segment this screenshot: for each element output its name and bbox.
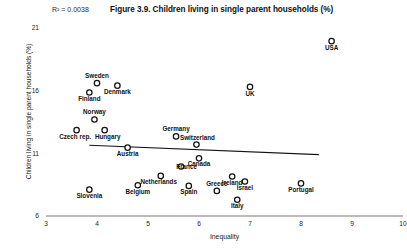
data-point-marker — [94, 80, 99, 85]
data-point-label: Spain — [180, 188, 197, 196]
data-point: Slovenia — [76, 187, 102, 199]
data-point: France — [176, 163, 197, 170]
scatter-plot: 3456789106111621 USASwedenDenmarkFinland… — [0, 0, 407, 252]
x-axis-label: Inequality — [46, 233, 403, 240]
data-point-label: Hungary — [95, 133, 121, 141]
x-tick-label: 4 — [95, 220, 99, 227]
data-point: Hungary — [95, 127, 121, 140]
data-point-label: Czech rep. — [59, 133, 91, 141]
data-point: Italy — [231, 197, 244, 210]
x-tick-label: 8 — [299, 220, 303, 227]
data-point-label: Germany — [162, 125, 190, 133]
data-points-group: USASwedenDenmarkFinlandUKNorwayCzech rep… — [59, 38, 339, 210]
data-point-label: Greece — [206, 180, 228, 187]
data-point: Greece — [206, 180, 228, 194]
data-point: USA — [325, 38, 339, 50]
y-tick-label: 21 — [32, 24, 40, 31]
data-point: UK — [245, 84, 255, 97]
data-point-label: Portugal — [288, 186, 314, 194]
data-point: Spain — [180, 183, 197, 196]
data-point-marker — [247, 84, 252, 89]
x-tick-label: 10 — [399, 220, 407, 227]
data-point: Norway — [83, 108, 106, 122]
data-point-label: Slovenia — [76, 192, 102, 199]
data-point-label: USA — [325, 44, 339, 51]
data-point-label: Finland — [78, 95, 101, 102]
x-tick-label: 7 — [248, 220, 252, 227]
data-point: Sweden — [85, 72, 109, 86]
data-point: Switzerland — [180, 134, 215, 148]
x-tick-label: 3 — [44, 220, 48, 227]
data-point-label: Israel — [237, 184, 254, 191]
data-point-label: Belgium — [125, 188, 150, 196]
data-point-label: Norway — [83, 108, 106, 116]
y-tick-label: 16 — [32, 87, 40, 94]
data-point-label: UK — [245, 90, 255, 97]
data-point-label: Denmark — [104, 88, 131, 95]
data-point: Finland — [78, 90, 101, 102]
data-point-marker — [173, 134, 178, 139]
data-point-label: France — [176, 163, 197, 170]
data-point: Czech rep. — [59, 127, 91, 140]
data-point-marker — [194, 142, 199, 147]
data-point-label: Austria — [117, 150, 139, 157]
data-point: Netherlands — [141, 173, 178, 185]
x-tick-label: 6 — [197, 220, 201, 227]
data-point-label: Italy — [231, 202, 244, 210]
y-axis-label: Children living in single parent househo… — [25, 19, 32, 204]
data-point: Portugal — [288, 181, 314, 194]
y-tick-label: 11 — [32, 150, 39, 157]
data-point-marker — [92, 117, 97, 122]
data-point-label: Switzerland — [180, 134, 215, 141]
data-point-label: Sweden — [85, 72, 109, 79]
figure-container: R² = 0.0038 Figure 3.9. Children living … — [0, 0, 407, 252]
data-point-marker — [214, 188, 219, 193]
y-tick-label: 6 — [35, 212, 39, 219]
data-point: Denmark — [104, 83, 131, 95]
x-tick-label: 5 — [146, 220, 150, 227]
data-point-label: Netherlands — [141, 178, 178, 185]
x-tick-label: 9 — [350, 220, 354, 227]
